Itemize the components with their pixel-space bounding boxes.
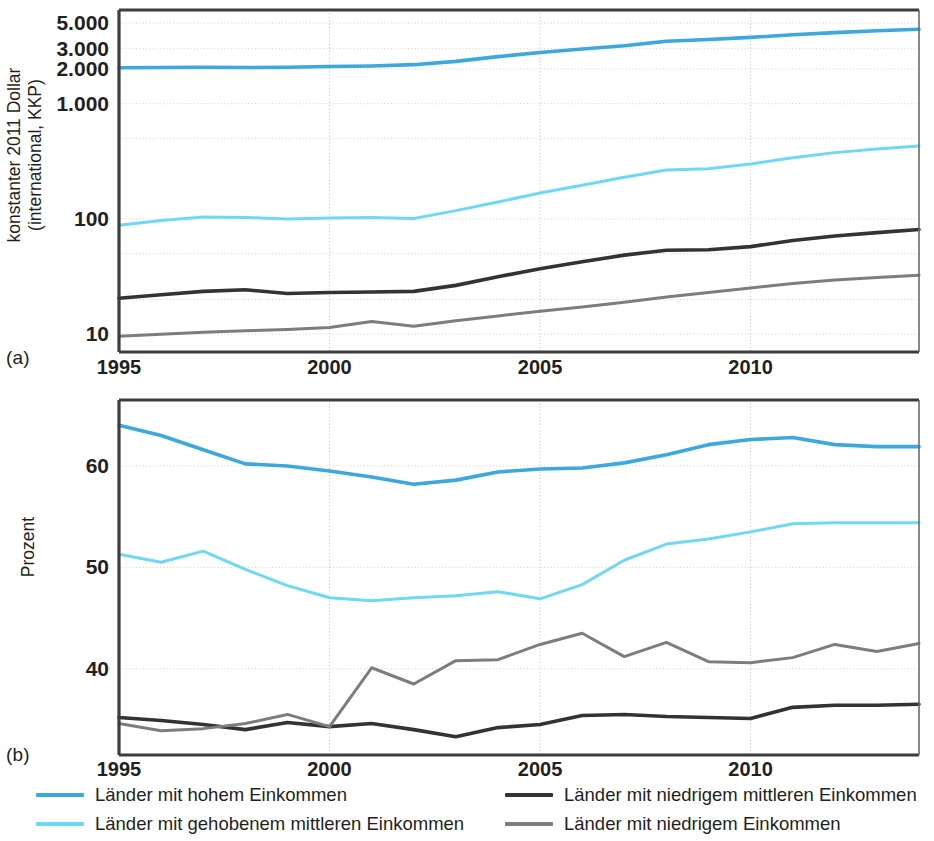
legend-label-low-income: Länder mit niedrigem Einkommen: [564, 815, 841, 834]
panel-b-plot: [0, 392, 934, 780]
x-tick-label: 2005: [518, 758, 563, 781]
x-tick-label: 2000: [307, 758, 352, 781]
legend-swatch-high-income: [36, 793, 84, 797]
panel-a-plot: [0, 0, 934, 392]
legend-swatch-upper-middle-income: [36, 822, 84, 826]
panel-a: (a) konstanter 2011 Dollar (internationa…: [0, 0, 934, 392]
x-tick-label: 1995: [97, 356, 142, 379]
legend-label-lower-middle-income: Länder mit niedrigem mittleren Einkommen: [564, 786, 917, 805]
legend-item-lower-middle-income[interactable]: Länder mit niedrigem mittleren Einkommen: [505, 782, 917, 808]
legend-swatch-low-income: [505, 822, 553, 826]
x-tick-label: 2005: [518, 356, 563, 379]
panel-b: (b) Prozent 605040 1995200020052010: [0, 392, 934, 780]
legend: Länder mit hohem Einkommen Länder mit ge…: [0, 782, 934, 841]
legend-item-low-income[interactable]: Länder mit niedrigem Einkommen: [505, 811, 841, 837]
x-tick-label: 2010: [728, 356, 773, 379]
x-tick-label: 2010: [728, 758, 773, 781]
x-tick-label: 1995: [97, 758, 142, 781]
legend-label-upper-middle-income: Länder mit gehobenem mittleren Einkommen: [95, 815, 464, 834]
legend-item-high-income[interactable]: Länder mit hohem Einkommen: [36, 782, 347, 808]
x-tick-label: 2000: [307, 356, 352, 379]
figure-root: (a) konstanter 2011 Dollar (internationa…: [0, 0, 934, 841]
legend-item-upper-middle-income[interactable]: Länder mit gehobenem mittleren Einkommen: [36, 811, 464, 837]
legend-swatch-lower-middle-income: [505, 793, 553, 797]
legend-label-high-income: Länder mit hohem Einkommen: [95, 786, 347, 805]
